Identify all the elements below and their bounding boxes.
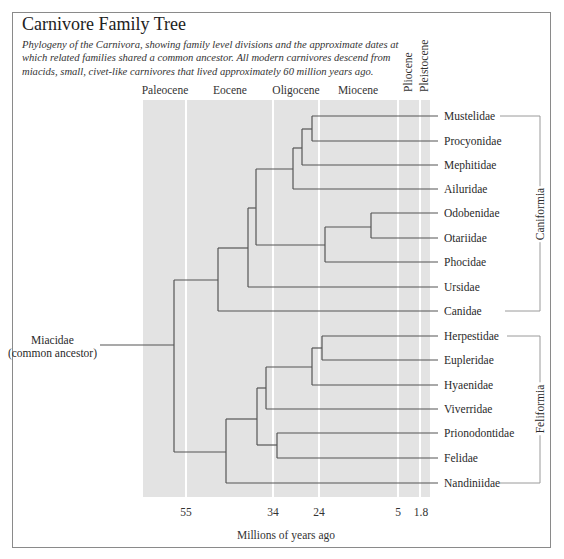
family-label: Ailuridae [444,183,487,195]
axis-tick: 34 [267,506,279,518]
group-label-caniformia: Caniformia [534,186,546,242]
family-label: Eupleridae [444,354,494,366]
phylogeny-tree [0,0,564,559]
axis-tick: 55 [180,506,192,518]
group-label-feliformia: Feliformia [534,383,546,436]
family-label: Canidae [444,305,482,317]
axis-tick: 5 [395,506,401,518]
ancestor-note: (common ancestor) [8,347,97,360]
ancestor-name: Miacidae [8,334,97,347]
family-label: Herpestidae [444,330,499,342]
family-label: Viverridae [444,403,492,415]
family-label: Nandiniidae [444,477,500,489]
family-label: Otariidae [444,232,487,244]
family-label: Procyonidae [444,135,501,147]
family-label: Mustelidae [444,110,495,122]
family-label: Felidae [444,452,478,464]
axis-tick: 1.8 [414,506,428,518]
ancestor-label: Miacidae (common ancestor) [8,334,97,360]
axis-title: Millions of years ago [237,529,335,541]
axis-tick: 24 [313,506,325,518]
family-label: Hyaenidae [444,379,493,391]
family-label: Ursidae [444,281,480,293]
family-label: Prionodontidae [444,427,514,439]
family-label: Odobenidae [444,207,500,219]
family-label: Phocidae [444,256,486,268]
family-label: Mephitidae [444,159,496,171]
